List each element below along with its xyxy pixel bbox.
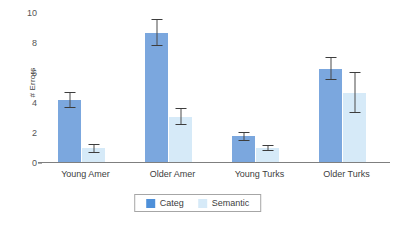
x-axis-category-label: Young Amer bbox=[42, 169, 129, 179]
error-bar-cap-upper bbox=[151, 19, 162, 20]
error-bar bbox=[151, 19, 162, 46]
bar-categ[interactable] bbox=[145, 33, 168, 164]
y-axis-tick-label: 0 bbox=[32, 158, 37, 168]
bar-slot bbox=[82, 13, 105, 163]
error-count-bar-chart: # Errors 0246810 Young AmerOlder AmerYou… bbox=[0, 0, 395, 230]
error-bar bbox=[64, 92, 75, 109]
legend-swatch-semantic-icon bbox=[198, 199, 207, 208]
error-bar-cap-upper bbox=[175, 108, 186, 109]
error-bar-cap-upper bbox=[64, 92, 75, 93]
x-axis-baseline bbox=[38, 162, 390, 163]
legend-swatch-categ-icon bbox=[146, 199, 155, 208]
legend-item-semantic[interactable]: Semantic bbox=[198, 198, 250, 208]
error-bar bbox=[238, 132, 249, 141]
error-bar bbox=[88, 144, 99, 153]
y-axis-tick-label: 2 bbox=[32, 128, 37, 138]
error-bar-stem bbox=[330, 57, 331, 80]
chart-legend: CategSemantic bbox=[134, 194, 262, 212]
x-axis-category-label: Older Amer bbox=[129, 169, 216, 179]
error-bar-stem bbox=[354, 72, 355, 113]
error-bar bbox=[262, 145, 273, 151]
error-bar-cap-lower bbox=[88, 152, 99, 153]
bar-slot bbox=[169, 13, 192, 163]
bar-slot bbox=[343, 13, 366, 163]
y-axis-tick-label: 10 bbox=[27, 8, 37, 18]
error-bar-cap-upper bbox=[349, 72, 360, 73]
bar-slot bbox=[256, 13, 279, 163]
error-bar-cap-lower bbox=[349, 112, 360, 113]
error-bar bbox=[349, 72, 360, 113]
error-bar-cap-upper bbox=[88, 144, 99, 145]
error-bar bbox=[325, 57, 336, 80]
error-bar-cap-lower bbox=[325, 79, 336, 80]
y-axis-tick-label: 4 bbox=[32, 98, 37, 108]
error-bar-cap-lower bbox=[64, 107, 75, 108]
x-axis-category-label: Older Turks bbox=[303, 169, 390, 179]
y-axis-tick-label: 8 bbox=[32, 38, 37, 48]
bar-categ[interactable] bbox=[58, 100, 81, 163]
plot-area: 0246810 bbox=[42, 13, 390, 163]
bar-slot bbox=[232, 13, 255, 163]
error-bar-cap-upper bbox=[325, 57, 336, 58]
bar-group bbox=[42, 13, 129, 163]
error-bar-stem bbox=[156, 19, 157, 46]
error-bar-cap-lower bbox=[238, 140, 249, 141]
error-bar-stem bbox=[180, 108, 181, 125]
bar-slot bbox=[145, 13, 168, 163]
error-bar bbox=[175, 108, 186, 125]
legend-item-label: Categ bbox=[160, 198, 184, 208]
error-bar-cap-upper bbox=[262, 145, 273, 146]
bar-group bbox=[303, 13, 390, 163]
bar-group bbox=[129, 13, 216, 163]
error-bar-cap-lower bbox=[151, 45, 162, 46]
error-bar-stem bbox=[69, 92, 70, 109]
error-bar-cap-lower bbox=[175, 124, 186, 125]
error-bar-cap-lower bbox=[262, 150, 273, 151]
x-axis-category-label: Young Turks bbox=[216, 169, 303, 179]
bar-categ[interactable] bbox=[319, 69, 342, 164]
legend-item-label: Semantic bbox=[212, 198, 250, 208]
error-bar-cap-upper bbox=[238, 132, 249, 133]
bar-slot bbox=[58, 13, 81, 163]
bar-slot bbox=[319, 13, 342, 163]
bar-group bbox=[216, 13, 303, 163]
legend-item-categ[interactable]: Categ bbox=[146, 198, 184, 208]
y-axis-tick-label: 6 bbox=[32, 68, 37, 78]
